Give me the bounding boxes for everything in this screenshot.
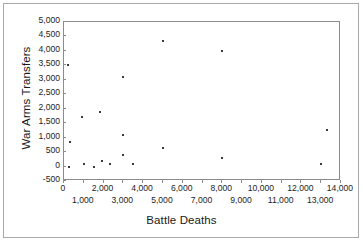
data-point xyxy=(93,166,95,168)
data-point xyxy=(221,50,223,52)
data-point xyxy=(326,129,328,131)
x-axis-tick-label: 14,000 xyxy=(317,183,363,193)
data-point xyxy=(221,157,223,159)
x-axis-tick-mark xyxy=(261,180,262,183)
x-axis-tick-labels-secondary: 1,0003,0005,0007,0009,00011,00013,000 xyxy=(0,195,363,207)
x-axis-tick-mark xyxy=(281,180,282,183)
y-axis-tick-label: 3,000 xyxy=(20,74,60,83)
data-point xyxy=(320,163,322,165)
y-axis-tick-label: 3,500 xyxy=(20,59,60,68)
x-axis-tick-label: 13,000 xyxy=(297,195,343,205)
plot-area xyxy=(63,21,340,180)
data-point xyxy=(69,141,71,143)
y-axis-tick-label: 5,000 xyxy=(20,16,60,25)
data-point xyxy=(162,147,164,149)
y-axis-tick-mark xyxy=(63,79,66,80)
y-axis-tick-mark xyxy=(63,35,66,36)
x-axis-tick-mark xyxy=(221,180,222,183)
y-axis-tick-label: 2,000 xyxy=(20,103,60,112)
y-axis-tick-mark xyxy=(63,122,66,123)
y-axis-tick-mark xyxy=(63,166,66,167)
data-point xyxy=(67,64,69,66)
y-axis-tick-mark xyxy=(63,137,66,138)
data-point xyxy=(68,166,70,168)
y-axis-tick-label: 4,000 xyxy=(20,45,60,54)
data-point xyxy=(83,163,85,165)
x-axis-tick-mark xyxy=(182,180,183,183)
x-axis-tick-mark xyxy=(83,180,84,183)
x-axis-tick-mark xyxy=(202,180,203,183)
y-axis-tick-mark xyxy=(63,108,66,109)
data-point xyxy=(132,163,134,165)
y-axis-tick-label: 4,500 xyxy=(20,30,60,39)
y-axis-tick-label: 1,500 xyxy=(20,117,60,126)
x-axis-tick-mark xyxy=(63,180,64,183)
x-axis-tick-mark xyxy=(103,180,104,183)
data-point xyxy=(99,111,101,113)
x-axis-tick-mark xyxy=(162,180,163,183)
y-axis-tick-mark xyxy=(63,21,66,22)
y-axis-tick-label: 1,000 xyxy=(20,132,60,141)
x-axis-tick-mark xyxy=(241,180,242,183)
x-axis-tick-mark xyxy=(142,180,143,183)
data-point xyxy=(101,160,103,162)
data-point xyxy=(122,76,124,78)
y-axis-tick-mark xyxy=(63,151,66,152)
x-axis-tick-mark xyxy=(320,180,321,183)
y-axis-tick-label: 2,500 xyxy=(20,88,60,97)
y-axis-tick-mark xyxy=(63,93,66,94)
data-point xyxy=(109,163,111,165)
x-axis-tick-mark xyxy=(122,180,123,183)
data-point xyxy=(81,116,83,118)
x-axis-tick-mark xyxy=(300,180,301,183)
y-axis-tick-label: 0 xyxy=(20,161,60,170)
x-axis-tick-mark xyxy=(340,180,341,183)
data-point xyxy=(162,40,164,42)
data-point xyxy=(122,154,124,156)
y-axis-tick-label: 500 xyxy=(20,146,60,155)
chart-figure: War Arms Transfers 5,0004,5004,0003,5003… xyxy=(0,0,363,242)
x-axis-title: Battle Deaths xyxy=(0,214,363,226)
data-point xyxy=(122,134,124,136)
y-axis-tick-mark xyxy=(63,64,66,65)
y-axis-tick-mark xyxy=(63,50,66,51)
x-axis-tick-labels-primary: 02,0004,0006,0008,00010,00012,00014,000 xyxy=(0,183,363,195)
